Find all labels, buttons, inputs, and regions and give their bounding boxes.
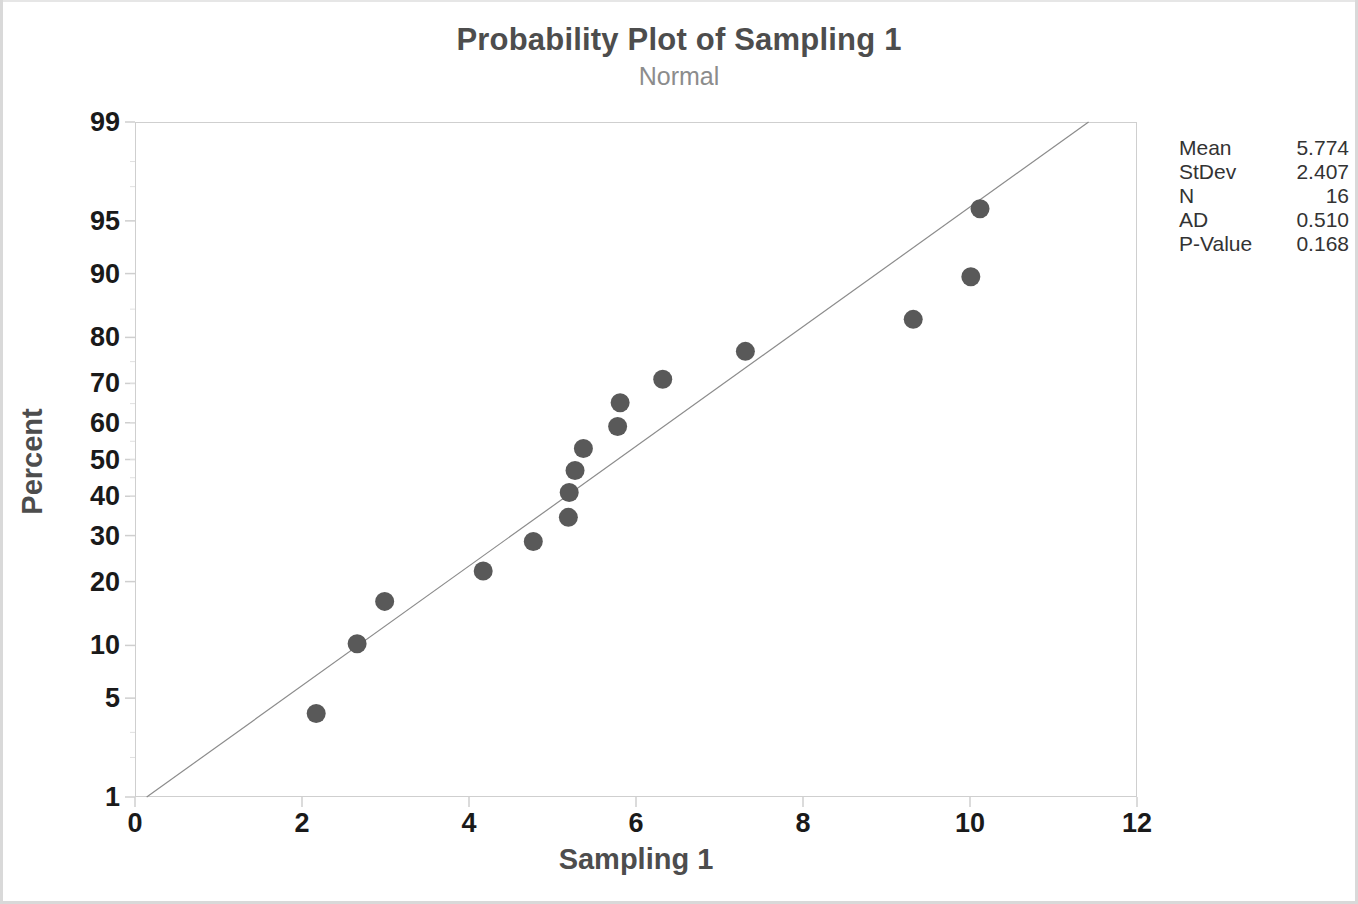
y-axis-label: Percent xyxy=(16,262,49,662)
chart-subtitle: Normal xyxy=(0,62,1358,91)
y-tick-label: 90 xyxy=(60,258,120,289)
y-tick-label: 20 xyxy=(60,566,120,597)
page-edge-top xyxy=(0,0,1358,2)
statistic-key: P-Value xyxy=(1179,232,1252,256)
statistic-row: AD0.510 xyxy=(1179,208,1349,232)
statistic-row: StDev2.407 xyxy=(1179,160,1349,184)
statistic-value: 16 xyxy=(1326,184,1349,208)
statistic-value: 0.168 xyxy=(1296,232,1349,256)
x-tick-label: 4 xyxy=(439,808,499,839)
statistic-key: N xyxy=(1179,184,1194,208)
statistic-value: 0.510 xyxy=(1296,208,1349,232)
x-axis-label: Sampling 1 xyxy=(135,843,1137,876)
statistic-value: 5.774 xyxy=(1296,136,1349,160)
y-tick-label: 95 xyxy=(60,205,120,236)
y-tick-label: 60 xyxy=(60,407,120,438)
page-edge-left xyxy=(0,0,3,904)
statistic-key: AD xyxy=(1179,208,1208,232)
x-tick-label: 10 xyxy=(940,808,1000,839)
y-tick-label: 5 xyxy=(60,683,120,714)
x-tick-label: 2 xyxy=(272,808,332,839)
statistics-panel: Mean5.774StDev2.407N16AD0.510P-Value0.16… xyxy=(1179,136,1349,256)
x-tick-label: 8 xyxy=(773,808,833,839)
x-tick-label: 12 xyxy=(1107,808,1167,839)
statistic-row: P-Value0.168 xyxy=(1179,232,1349,256)
statistic-row: N16 xyxy=(1179,184,1349,208)
statistic-row: Mean5.774 xyxy=(1179,136,1349,160)
x-axis-ticks: 024681012 xyxy=(0,808,1358,848)
statistic-key: Mean xyxy=(1179,136,1232,160)
y-tick-label: 10 xyxy=(60,630,120,661)
y-tick-label: 80 xyxy=(60,322,120,353)
chart-title: Probability Plot of Sampling 1 xyxy=(0,22,1358,58)
probability-plot-page: Probability Plot of Sampling 1 Normal 15… xyxy=(0,0,1358,904)
statistic-value: 2.407 xyxy=(1296,160,1349,184)
x-tick-label: 0 xyxy=(105,808,165,839)
y-tick-label: 30 xyxy=(60,520,120,551)
statistic-key: StDev xyxy=(1179,160,1236,184)
y-tick-label: 99 xyxy=(60,107,120,138)
y-tick-label: 40 xyxy=(60,481,120,512)
x-tick-label: 6 xyxy=(606,808,666,839)
y-tick-label: 70 xyxy=(60,368,120,399)
plot-area-frame xyxy=(135,122,1137,797)
y-tick-label: 50 xyxy=(60,444,120,475)
